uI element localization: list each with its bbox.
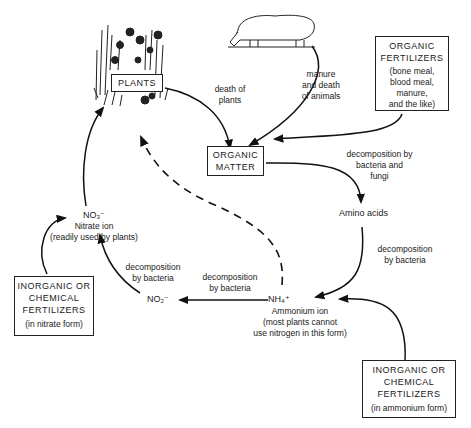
organic-fertilizers-sub2: blood meal, xyxy=(376,77,448,88)
death-of-plants-line2: plants xyxy=(205,95,255,106)
nitrate-formula: NO₃⁻ xyxy=(44,210,144,221)
nitrate-name: Nitrate ion xyxy=(44,221,144,232)
decomp-amino-line1: decomposition xyxy=(370,244,440,255)
label-decomp-nitrite: decomposition by bacteria xyxy=(118,262,188,284)
organic-matter-line1: ORGANIC xyxy=(208,149,263,161)
decomp-fungi-line2: bacteria and xyxy=(337,160,422,171)
organic-matter-line2: MATTER xyxy=(208,161,263,173)
organic-matter-node: ORGANIC MATTER xyxy=(207,146,264,176)
ammonium-name: Ammonium ion xyxy=(245,306,355,317)
inorganic-ammonium-sub: (in ammonium form) xyxy=(363,403,455,414)
inorganic-nitrate-sub: (in nitrate form) xyxy=(15,319,93,330)
inorganic-ammonium-title2: CHEMICAL xyxy=(363,376,455,388)
nitrate-node: NO₃⁻ Nitrate ion (readily used by plants… xyxy=(44,210,144,243)
organic-fertilizers-node: ORGANIC FERTILIZERS (bone meal, blood me… xyxy=(375,36,449,111)
label-manure-death-animals: manure and death of animals xyxy=(296,69,346,102)
manure-line2: and death xyxy=(296,80,346,91)
amino-acids-node: Amino acids xyxy=(339,208,388,219)
label-decomp-amino: decomposition by bacteria xyxy=(370,244,440,266)
inorganic-nitrate-fertilizers-node: INORGANIC OR CHEMICAL FERTILIZERS (in ni… xyxy=(14,276,94,336)
decomp-nitrite-line2: by bacteria xyxy=(118,273,188,284)
inorganic-ammonium-fertilizers-node: INORGANIC OR CHEMICAL FERTILIZERS (in am… xyxy=(362,360,456,418)
inorganic-nitrate-title1: INORGANIC OR xyxy=(15,280,93,292)
decomp-fungi-line1: decomposition by xyxy=(337,149,422,160)
decomp-amino-line2: by bacteria xyxy=(370,255,440,266)
ammonium-note2: use nitrogen in this form) xyxy=(245,328,355,339)
plants-node: PLANTS xyxy=(111,74,163,92)
organic-fertilizers-sub4: and the like) xyxy=(376,99,448,110)
manure-line3: of animals xyxy=(296,91,346,102)
ammonium-note1: (most plants cannot xyxy=(245,317,355,328)
nitrate-note: (readily used by plants) xyxy=(44,232,144,243)
nitrite-node: NO₂⁻ xyxy=(147,294,169,305)
organic-fertilizers-title1: ORGANIC xyxy=(376,40,448,52)
label-death-of-plants: death of plants xyxy=(205,84,255,106)
decomp-fungi-line3: fungi xyxy=(337,171,422,182)
manure-line1: manure xyxy=(296,69,346,80)
sheep-illustration xyxy=(228,15,315,47)
organic-fertilizers-sub3: manure, xyxy=(376,88,448,99)
ammonium-formula: NH₄⁺ xyxy=(268,294,290,305)
inorganic-nitrate-title2: CHEMICAL xyxy=(15,292,93,304)
plants-illustration xyxy=(94,25,168,106)
decomp-ammonium-line2: by bacteria xyxy=(195,283,265,294)
inorganic-nitrate-title3: FERTILIZERS xyxy=(15,304,93,316)
label-decomp-bacteria-fungi: decomposition by bacteria and fungi xyxy=(337,149,422,182)
inorganic-ammonium-title1: INORGANIC OR xyxy=(363,364,455,376)
death-of-plants-line1: death of xyxy=(205,84,255,95)
label-decomp-ammonium: decomposition by bacteria xyxy=(195,272,265,294)
organic-fertilizers-sub1: (bone meal, xyxy=(376,66,448,77)
inorganic-ammonium-title3: FERTILIZERS xyxy=(363,388,455,400)
organic-fertilizers-title2: FERTILIZERS xyxy=(376,52,448,64)
ammonium-node: Ammonium ion (most plants cannot use nit… xyxy=(245,306,355,339)
decomp-nitrite-line1: decomposition xyxy=(118,262,188,273)
decomp-ammonium-line1: decomposition xyxy=(195,272,265,283)
